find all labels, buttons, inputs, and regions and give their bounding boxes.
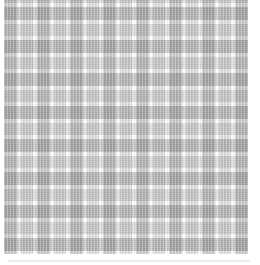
photo-canvas — [0, 0, 260, 265]
plaid-fabric-swatch — [4, 0, 248, 254]
weave-texture — [4, 0, 248, 254]
bottom-edge-shadow — [8, 260, 250, 262]
